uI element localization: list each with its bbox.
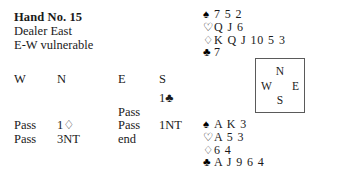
south-suit-clubs: ♣A J 9 6 4 (203, 156, 265, 169)
auction-col-east: E (118, 73, 159, 92)
bid-north: 1♢ (57, 119, 118, 133)
bid-west (14, 92, 57, 106)
club-symbol: ♣ (203, 46, 214, 59)
bid-north (57, 92, 118, 106)
bid-east: end (118, 133, 159, 147)
hand-number-title: Hand No. 15 (14, 10, 194, 24)
spade-symbol: ♠ (203, 118, 214, 131)
bid-south: 1NT (159, 119, 204, 133)
diamond-symbol: ♢ (203, 34, 214, 47)
bid-east (118, 92, 159, 106)
compass-north-label: N (256, 65, 304, 77)
bid-west (14, 106, 57, 120)
compass-box: N W E S (255, 58, 305, 113)
bid-east: Pass (118, 119, 159, 133)
dealer-line: Dealer East (14, 24, 194, 38)
north-diamonds-cards: K Q J 10 5 3 (214, 33, 286, 47)
bid-south: 1♣ (159, 92, 204, 106)
spade-symbol: ♠ (203, 8, 214, 21)
compass-east-label: E (292, 80, 299, 92)
north-hand: ♠7 5 2 ♡Q J 6 ♢K Q J 10 5 3 ♣7 (203, 8, 286, 59)
auction-table: W N E S 1♣ Pass Pass 1♢ Pass (14, 73, 204, 146)
north-clubs-cards: 7 (214, 45, 221, 59)
bid-south (159, 106, 204, 120)
bid-north: 3NT (57, 133, 118, 147)
bid-west: Pass (14, 133, 57, 147)
diamond-symbol: ♢ (203, 144, 214, 157)
south-hand: ♠A K 3 ♡A 5 3 ♢6 4 ♣A J 9 6 4 (203, 118, 265, 169)
auction-col-west: W (14, 73, 57, 92)
bid-east: Pass (118, 106, 159, 120)
heart-symbol: ♡ (203, 131, 214, 144)
auction-row: Pass (14, 106, 204, 120)
auction-col-north: N (57, 73, 118, 92)
auction-row: Pass 3NT end (14, 133, 204, 147)
auction-row: Pass 1♢ Pass 1NT (14, 119, 204, 133)
auction-header-row: W N E S (14, 73, 204, 92)
south-clubs-cards: A J 9 6 4 (214, 155, 265, 169)
vulnerability-line: E-W vulnerable (14, 38, 194, 52)
bid-north (57, 106, 118, 120)
deal-header: Hand No. 15 Dealer East E-W vulnerable (14, 10, 194, 52)
club-symbol: ♣ (203, 156, 214, 169)
bid-west: Pass (14, 119, 57, 133)
heart-symbol: ♡ (203, 21, 214, 34)
bid-south (159, 133, 204, 147)
bridge-deal-diagram: Hand No. 15 Dealer East E-W vulnerable W… (0, 0, 344, 175)
south-suit-hearts: ♡A 5 3 (203, 131, 265, 144)
auction-row: 1♣ (14, 92, 204, 106)
compass-south-label: S (256, 94, 304, 106)
compass-west-label: W (261, 80, 272, 92)
auction-col-south: S (159, 73, 204, 92)
